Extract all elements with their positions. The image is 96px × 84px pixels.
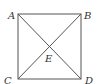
square-diagram: A B C D E [0, 0, 96, 84]
label-c: C [4, 75, 12, 84]
label-d: D [84, 75, 93, 84]
label-a: A [7, 10, 15, 21]
label-e: E [44, 53, 53, 64]
label-b: B [83, 10, 91, 21]
